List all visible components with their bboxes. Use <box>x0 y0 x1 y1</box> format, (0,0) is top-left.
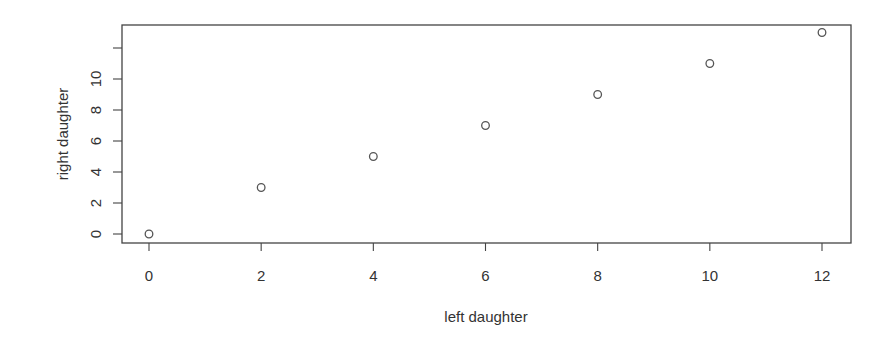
data-point <box>594 91 602 99</box>
y-tick-label: 8 <box>87 106 104 114</box>
y-axis-ticks: 0246810 <box>87 48 123 238</box>
plot-frame <box>122 25 851 243</box>
data-point <box>482 122 490 130</box>
x-tick-label: 2 <box>257 267 265 284</box>
x-axis-label: left daughter <box>0 308 886 325</box>
x-tick-label: 6 <box>481 267 489 284</box>
x-axis-ticks: 024681012 <box>145 243 831 284</box>
y-tick-label: 2 <box>87 199 104 207</box>
data-point <box>145 230 153 238</box>
data-point <box>370 153 378 161</box>
data-point <box>706 60 714 68</box>
scatter-plot: 024681012 0246810 <box>0 0 886 339</box>
x-tick-label: 10 <box>701 267 718 284</box>
y-tick-label: 4 <box>87 168 104 176</box>
data-point <box>818 29 826 37</box>
x-tick-label: 0 <box>145 267 153 284</box>
data-point <box>257 184 265 192</box>
data-points <box>145 29 826 238</box>
y-tick-label: 6 <box>87 137 104 145</box>
y-tick-label: 10 <box>87 71 104 88</box>
x-tick-label: 8 <box>593 267 601 284</box>
y-tick-label: 0 <box>87 230 104 238</box>
x-tick-label: 12 <box>814 267 831 284</box>
y-axis-label: right daughter <box>54 88 71 181</box>
x-tick-label: 4 <box>369 267 377 284</box>
